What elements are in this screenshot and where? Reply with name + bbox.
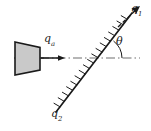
label-q-a-subscript: a [51,40,55,48]
source-body-trapezoid [15,42,40,75]
label-q-1-subscript: 1 [138,10,142,18]
label-q-2: q2 [51,108,62,122]
label-q-2-symbol: q [51,107,58,120]
incident-flux-arrow [41,55,65,61]
hatched-inclined-line [54,13,132,112]
label-q-a-symbol: q [44,32,51,45]
flux-incidence-diagram [0,0,151,131]
label-q-1-symbol: q [131,2,138,15]
diagram-canvas: qa q1 q2 θ [0,0,151,131]
label-q-2-subscript: 2 [58,115,62,123]
label-theta: θ [116,36,123,47]
label-q-a: qa [44,33,55,47]
surface-hatch-marks [54,16,127,107]
label-q-1: q1 [131,3,142,17]
